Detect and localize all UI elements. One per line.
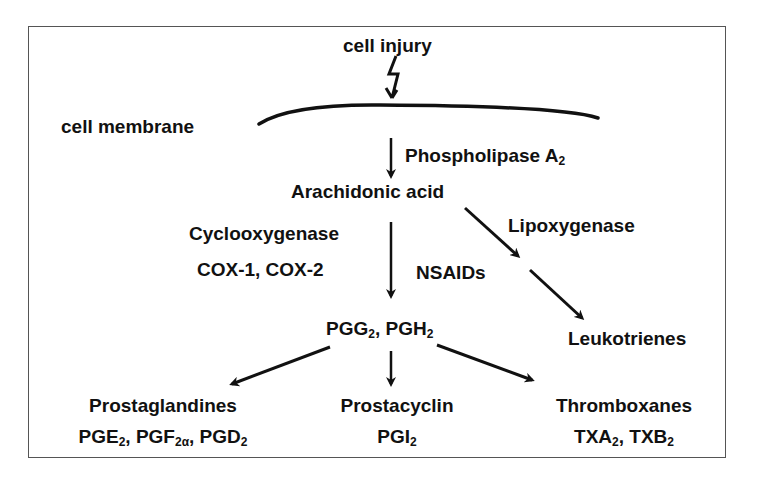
- cox-isoforms-label: COX-1, COX-2: [197, 260, 324, 279]
- pgd-text: PGD: [200, 426, 241, 447]
- diagram-arrows: [0, 0, 759, 490]
- pgg-text: PGG: [326, 318, 368, 339]
- pgg-pgh-separator: ,: [375, 318, 386, 339]
- prostacyclin-label: Prostacyclin: [341, 396, 454, 415]
- cell-membrane-label: cell membrane: [61, 117, 194, 136]
- nsaids-label: NSAIDs: [416, 263, 486, 282]
- pgf-text: PGF: [136, 426, 175, 447]
- pgd-sub: 2: [241, 435, 248, 449]
- pgg-pgh-label: PGG2, PGH2: [326, 319, 433, 338]
- pgf-sub: 2α: [175, 435, 189, 449]
- leukotrienes-label: Leukotrienes: [568, 329, 686, 348]
- txa-text: TXA: [574, 426, 612, 447]
- txb-sub: 2: [667, 435, 674, 449]
- cyclooxygenase-label: Cyclooxygenase: [189, 224, 339, 243]
- lightning-bolt-icon: [386, 56, 398, 98]
- pgh-text: PGH: [385, 318, 426, 339]
- pge-sub: 2: [119, 435, 126, 449]
- pgh-sub: 2: [427, 327, 434, 341]
- prostaglandines-members: PGE2, PGF2α, PGD2: [79, 427, 248, 446]
- arachidonic-acid-label: Arachidonic acid: [291, 182, 444, 201]
- prostaglandines-label: Prostaglandines: [89, 396, 237, 415]
- cell-membrane-curve: [259, 105, 598, 124]
- txb-text: TXB: [629, 426, 667, 447]
- pge-text: PGE: [79, 426, 119, 447]
- lipoxygenase-label: Lipoxygenase: [508, 216, 635, 235]
- pgg-sub: 2: [368, 327, 375, 341]
- phospholipase-sub: 2: [558, 154, 565, 168]
- arrow-to-thromboxanes: [437, 345, 532, 380]
- arrow-to-prostaglandines: [232, 347, 330, 384]
- pgi-text: PGI: [377, 426, 410, 447]
- cell-injury-label: cell injury: [343, 36, 432, 55]
- pgi-sub: 2: [410, 435, 417, 449]
- phospholipase-text: Phospholipase A: [405, 145, 558, 166]
- thromboxanes-members: TXA2, TXB2: [574, 427, 674, 446]
- prostacyclin-members: PGI2: [377, 427, 416, 446]
- thromboxanes-label: Thromboxanes: [556, 396, 692, 415]
- arrow-lox-to-leukotrienes: [530, 270, 582, 318]
- phospholipase-label: Phospholipase A2: [405, 146, 565, 165]
- txa-sub: 2: [612, 435, 619, 449]
